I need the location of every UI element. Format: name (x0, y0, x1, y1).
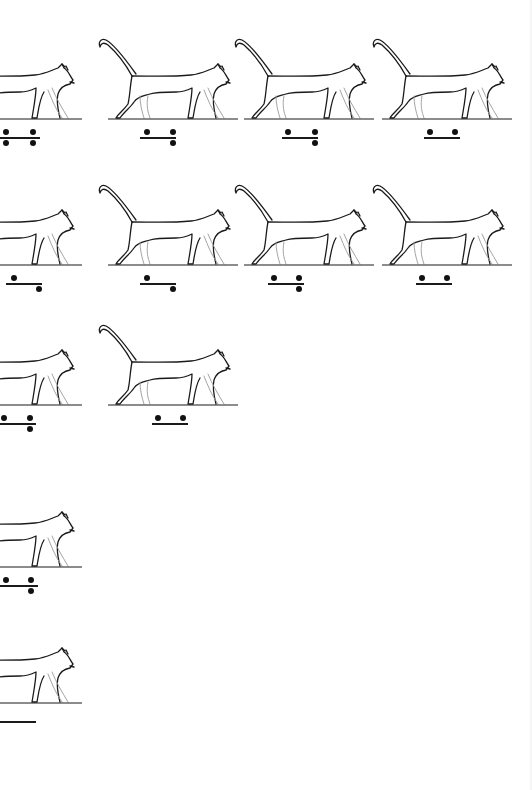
cat-figure-r2c3 (370, 176, 520, 271)
footfall-diagram-r2c2 (268, 272, 304, 302)
footfall-dot-below (36, 286, 42, 292)
cat-figure-r5c0 (0, 614, 90, 709)
footfall-dot-above (1, 415, 7, 421)
footfall-bar (282, 137, 318, 139)
footfall-dot-below (170, 286, 176, 292)
footfall-dot-above (444, 275, 450, 281)
footfall-dot-above (3, 129, 9, 135)
footfall-dot-above (312, 129, 318, 135)
footfall-diagram-r1c2 (282, 126, 318, 156)
footfall-dot-below (296, 286, 302, 292)
footfall-bar (0, 585, 38, 587)
footfall-dot-above (3, 577, 9, 583)
cat-figure-r3c1 (96, 316, 246, 411)
footfall-diagram-r3c1 (152, 412, 188, 442)
footfall-dot-below (28, 588, 34, 594)
cat-figure-r2c0 (0, 176, 90, 271)
walking-cat-drawing (0, 176, 90, 271)
footfall-diagram-r4c0 (0, 574, 38, 604)
footfall-bar (0, 423, 36, 425)
footfall-dot-below (27, 426, 33, 432)
footfall-bar (6, 283, 42, 285)
walking-cat-drawing (96, 30, 246, 125)
footfall-bar (416, 283, 452, 285)
walking-cat-drawing (0, 316, 90, 411)
walking-cat-drawing (0, 30, 90, 125)
cat-figure-r1c0 (0, 30, 90, 125)
footfall-bar (140, 283, 176, 285)
footfall-dot-above (427, 129, 433, 135)
footfall-dot-above (271, 275, 277, 281)
footfall-dot-above (296, 275, 302, 281)
footfall-dot-above (180, 415, 186, 421)
footfall-dot-below (30, 140, 36, 146)
walking-cat-drawing (370, 30, 520, 125)
footfall-dot-below (312, 140, 318, 146)
cat-figure-r1c2 (232, 30, 382, 125)
footfall-diagram-r2c1 (140, 272, 176, 302)
footfall-bar (152, 423, 188, 425)
footfall-diagram-r1c0 (0, 126, 40, 156)
walking-cat-drawing (370, 176, 520, 271)
footfall-dot-above (144, 275, 150, 281)
cat-figure-r1c1 (96, 30, 246, 125)
footfall-dot-above (452, 129, 458, 135)
footfall-dot-above (28, 577, 34, 583)
footfall-dot-above (11, 275, 17, 281)
footfall-dot-above (27, 415, 33, 421)
walking-cat-drawing (0, 478, 90, 573)
walking-cat-drawing (232, 176, 382, 271)
footfall-dot-above (144, 129, 150, 135)
footfall-diagram-r3c0 (0, 412, 36, 442)
cat-figure-r3c0 (0, 316, 90, 411)
footfall-bar (424, 137, 460, 139)
footfall-dot-below (170, 140, 176, 146)
footfall-bar (0, 721, 36, 723)
cat-figure-r1c3 (370, 30, 520, 125)
footfall-dot-above (419, 275, 425, 281)
walking-cat-drawing (232, 30, 382, 125)
footfall-dot-above (155, 415, 161, 421)
cat-figure-r4c0 (0, 478, 90, 573)
walking-cat-drawing (96, 176, 246, 271)
cat-figure-r2c1 (96, 176, 246, 271)
footfall-dot-below (3, 140, 9, 146)
footfall-bar (140, 137, 176, 139)
footfall-dot-above (285, 129, 291, 135)
footfall-dot-above (30, 129, 36, 135)
footfall-diagram-r1c1 (140, 126, 176, 156)
footfall-diagram-r1c3 (424, 126, 460, 156)
walking-cat-drawing (96, 316, 246, 411)
footfall-dot-above (170, 129, 176, 135)
footfall-diagram-r2c0 (6, 272, 42, 302)
footfall-diagram-r5c0 (0, 710, 36, 740)
footfall-bar (0, 137, 40, 139)
cat-figure-r2c2 (232, 176, 382, 271)
footfall-diagram-r2c3 (416, 272, 452, 302)
footfall-bar (268, 283, 304, 285)
walking-cat-drawing (0, 614, 90, 709)
